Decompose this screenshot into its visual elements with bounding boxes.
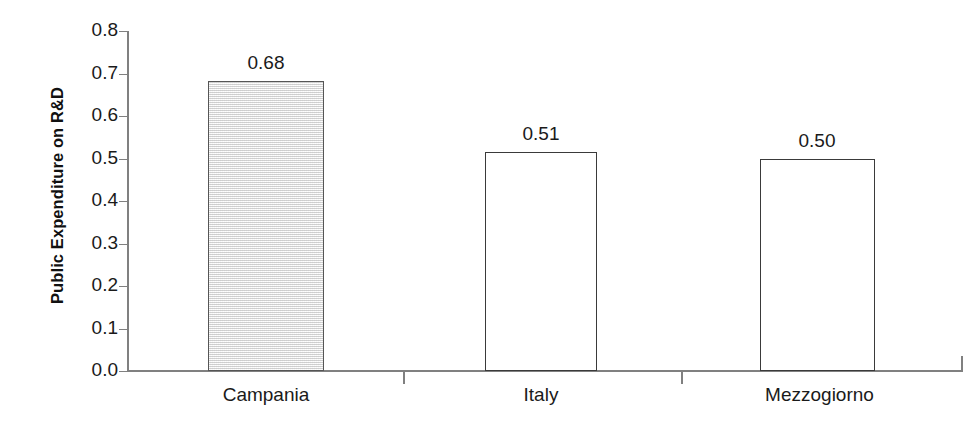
y-tick-label: 0.1 <box>48 317 118 339</box>
bar-value-label-campania: 0.68 <box>206 52 326 74</box>
x-category-label-mezzogiorno: Mezzogiorno <box>737 384 902 406</box>
y-tick-mark <box>119 371 128 372</box>
y-tick-label: 0.4 <box>48 189 118 211</box>
bar-italy[interactable] <box>485 152 597 371</box>
bar-chart: Public Expenditure on R&D 0.8 0.7 0.6 0.… <box>0 0 978 435</box>
y-tick-mark <box>119 74 128 75</box>
x-axis-right-cap <box>961 356 963 371</box>
x-axis-divider <box>681 371 683 384</box>
y-tick-mark <box>119 286 128 287</box>
y-tick-label: 0.5 <box>48 147 118 169</box>
bar-campania[interactable] <box>208 81 324 371</box>
y-tick-label: 0.3 <box>48 232 118 254</box>
y-tick-mark <box>119 116 128 117</box>
y-tick-label: 0.6 <box>48 104 118 126</box>
x-category-label-italy: Italy <box>481 384 601 406</box>
bar-value-label-italy: 0.51 <box>481 123 601 145</box>
y-tick-label: 0.7 <box>48 62 118 84</box>
y-tick-mark <box>119 244 128 245</box>
bar-value-label-mezzogiorno: 0.50 <box>757 130 877 152</box>
y-tick-mark <box>119 329 128 330</box>
x-axis-divider <box>403 371 405 384</box>
y-tick-mark <box>119 201 128 202</box>
y-tick-mark <box>119 159 128 160</box>
y-tick-label: 0.2 <box>48 274 118 296</box>
y-tick-label: 0.8 <box>48 19 118 41</box>
y-tick-label: 0.0 <box>48 359 118 381</box>
x-category-label-campania: Campania <box>206 384 326 406</box>
bar-mezzogiorno[interactable] <box>760 159 875 371</box>
y-tick-mark <box>119 31 128 32</box>
